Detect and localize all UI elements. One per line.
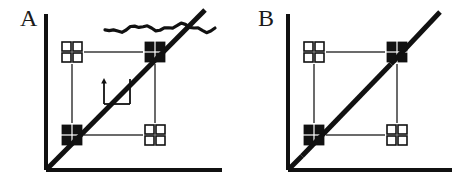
glyph-cell-open xyxy=(145,125,154,134)
glyph-cell-filled xyxy=(62,125,71,134)
glyph-cell-open xyxy=(315,53,324,62)
glyph-cell-open xyxy=(387,136,396,145)
glyph-cell-open xyxy=(62,53,71,62)
glyph-cell-filled xyxy=(304,125,313,134)
glyph-cell-open xyxy=(62,42,71,51)
glyph-cell-filled xyxy=(398,53,407,62)
glyph-cell-filled xyxy=(315,136,324,145)
glyph-cell-open xyxy=(387,125,396,134)
glyph-cell-open xyxy=(156,136,165,145)
glyph-cell-filled xyxy=(73,125,82,134)
glyph-cell-filled xyxy=(145,42,154,51)
glyph-cell-open xyxy=(73,42,82,51)
glyph-cell-open xyxy=(73,53,82,62)
glyph-cell-filled xyxy=(73,136,82,145)
glyph-cell-filled xyxy=(156,42,165,51)
glyph-cell-open xyxy=(145,136,154,145)
glyph-cell-open xyxy=(156,125,165,134)
glyph-cell-filled xyxy=(387,42,396,51)
glyph-cell-filled xyxy=(156,53,165,62)
glyph-cell-filled xyxy=(62,136,71,145)
glyph-cell-open xyxy=(398,136,407,145)
glyph-cell-filled xyxy=(387,53,396,62)
figure-canvas: AB xyxy=(0,0,462,184)
glyph-cell-filled xyxy=(304,136,313,145)
glyph-cell-open xyxy=(315,42,324,51)
glyph-cell-open xyxy=(304,53,313,62)
panel-label-A: A xyxy=(20,5,38,31)
glyph-cell-filled xyxy=(315,125,324,134)
figure-root: AB xyxy=(0,0,462,184)
glyph-cell-filled xyxy=(145,53,154,62)
glyph-cell-open xyxy=(304,42,313,51)
figure-background xyxy=(0,0,462,184)
glyph-cell-open xyxy=(398,125,407,134)
glyph-cell-filled xyxy=(398,42,407,51)
panel-label-B: B xyxy=(258,5,274,31)
